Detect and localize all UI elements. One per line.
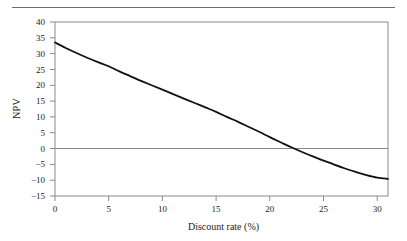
x-tick-label-25: 25 — [319, 205, 328, 214]
y-tick-label-0: 0 — [20, 144, 45, 153]
y-tick-label-neg5: −5 — [20, 160, 45, 169]
x-tick-label-20: 20 — [265, 205, 274, 214]
y-tick-label-35: 35 — [20, 33, 45, 42]
x-tick-label-0: 0 — [53, 205, 58, 214]
x-axis-ticks — [55, 196, 377, 201]
y-tick-label-40: 40 — [20, 18, 45, 27]
x-tick-label-15: 15 — [212, 205, 221, 214]
x-tick-label-5: 5 — [106, 205, 111, 214]
y-axis-title: NPV — [11, 89, 22, 129]
plot-border — [55, 22, 388, 196]
x-tick-label-10: 10 — [158, 205, 167, 214]
y-axis-ticks — [50, 22, 55, 196]
y-tick-label-20: 20 — [20, 81, 45, 90]
x-tick-label-30: 30 — [373, 205, 382, 214]
y-tick-label-10: 10 — [20, 112, 45, 121]
plot-frame — [55, 22, 388, 196]
y-tick-label-30: 30 — [20, 49, 45, 58]
x-axis-title: Discount rate (%) — [141, 221, 306, 232]
npv-discount-rate-line-chart — [0, 0, 407, 241]
y-tick-label-5: 5 — [20, 128, 45, 137]
y-tick-label-neg15: −15 — [20, 192, 45, 201]
y-tick-label-15: 15 — [20, 97, 45, 106]
y-tick-label-25: 25 — [20, 65, 45, 74]
y-tick-label-neg10: −10 — [20, 176, 45, 185]
figure-container: 40 35 30 25 20 15 10 5 0 −5 −10 −15 0 5 … — [0, 0, 407, 241]
npv-curve-line — [55, 43, 388, 179]
